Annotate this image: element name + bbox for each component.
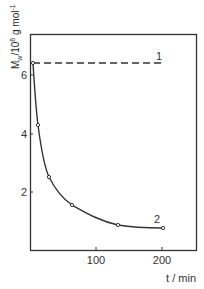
x-axis-label: t / min [166,272,196,284]
series-2-markers [31,61,164,229]
series-1-label: 1 [156,50,162,62]
series-2-label: 2 [154,213,160,225]
x-tick-100: 100 [87,254,105,266]
y-tick-4: 4 [21,128,27,140]
chart-canvas: 6 4 2 100 200 t / min 1 2 [0,0,204,289]
x-tick-200: 200 [153,254,171,266]
y-tick-2: 2 [21,186,27,198]
plot-frame [31,35,197,251]
y-axis-label: Mw/106 g mol-1 [9,5,23,69]
y-tick-6: 6 [21,69,27,81]
y-ticks: 6 4 2 [21,69,33,198]
series-2-line [33,63,163,228]
